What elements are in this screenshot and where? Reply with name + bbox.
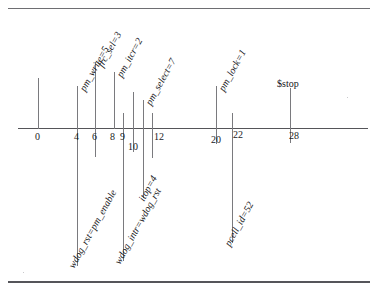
scan-speck	[347, 97, 348, 98]
tick-label-8: 8	[110, 131, 115, 142]
event-label-pm-itcr: pm_itcr=2	[115, 37, 145, 79]
event-label-stop: $stop	[277, 78, 299, 89]
tick-label-28: 28	[289, 130, 299, 141]
event-stem-t4	[77, 86, 78, 266]
tick-label-9: 9	[120, 131, 125, 142]
tick-label-22: 22	[233, 129, 243, 140]
event-stem-t12	[152, 113, 153, 158]
tick-label-10: 10	[128, 141, 138, 152]
timeline-axis	[18, 128, 368, 129]
tick-label-0: 0	[35, 131, 40, 142]
figure-bottom-border	[8, 281, 370, 283]
event-label-wdog-rst: wdog_rst=pm_enable	[67, 188, 118, 270]
timeline-figure: 0 4 6 8 9 10 12 20 22 28 pm_write=5 frc_…	[0, 0, 380, 299]
event-stem-t8	[114, 72, 115, 129]
scan-speck	[23, 272, 24, 273]
tick-label-4: 4	[74, 131, 79, 142]
figure-top-border	[8, 8, 370, 9]
event-label-pm-select: pm_select=7	[144, 57, 178, 107]
tick-label-6: 6	[92, 131, 97, 142]
event-stem-t0	[38, 78, 39, 129]
event-label-pcell-id: pcell_id=52	[223, 200, 255, 248]
tick-label-12: 12	[154, 131, 164, 142]
tick-label-20: 20	[211, 134, 221, 145]
event-label-pm-lock: pm_lock=1	[217, 48, 248, 93]
